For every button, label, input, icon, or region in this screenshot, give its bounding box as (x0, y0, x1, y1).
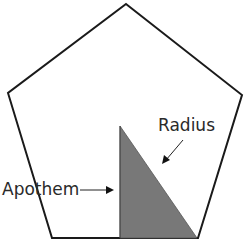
radius-arrow-shaft (166, 140, 183, 160)
apothem-arrow-head-icon (106, 186, 114, 194)
apothem-label: Apothem (2, 179, 79, 199)
pentagon-diagram: Radius Apothem (0, 0, 244, 242)
apothem-radius-triangle (120, 126, 197, 238)
radius-label: Radius (158, 115, 215, 135)
